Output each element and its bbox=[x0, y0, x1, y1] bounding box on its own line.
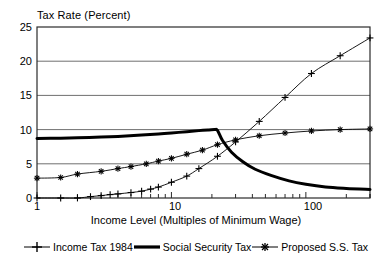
chart-legend: Income Tax 1984 Social Security Tax Prop… bbox=[24, 236, 368, 258]
legend-item-income-tax-1984: Income Tax 1984 bbox=[24, 241, 133, 253]
y-tick-label-10: 10 bbox=[6, 125, 32, 136]
chart-title: Tax Rate (Percent) bbox=[37, 9, 131, 21]
legend-label-proposed-ss-tax: Proposed S.S. Tax bbox=[281, 241, 368, 253]
x-tick-label-1: 1 bbox=[17, 201, 57, 212]
thick-line-symbol-icon bbox=[134, 241, 160, 253]
legend-item-social-security-tax: Social Security Tax bbox=[134, 241, 252, 253]
legend-label-social-security-tax: Social Security Tax bbox=[163, 241, 252, 253]
series-income-tax-1984 bbox=[34, 35, 374, 202]
y-tick-label-15: 15 bbox=[6, 90, 32, 101]
series-social-security-tax bbox=[37, 129, 370, 189]
star-line-symbol-icon bbox=[252, 241, 278, 253]
plot-frame bbox=[37, 27, 370, 198]
legend-label-income-tax-1984: Income Tax 1984 bbox=[53, 241, 133, 253]
gridlines bbox=[37, 61, 370, 164]
y-tick-label-25: 25 bbox=[6, 22, 32, 33]
x-axis-title: Income Level (Multiples of Minimum Wage) bbox=[0, 214, 392, 226]
series-proposed-s-s-tax bbox=[34, 126, 373, 181]
x-axis-ticks bbox=[37, 192, 370, 198]
y-tick-label-20: 20 bbox=[6, 56, 32, 67]
legend-item-proposed-ss-tax: Proposed S.S. Tax bbox=[252, 241, 368, 253]
y-tick-label-5: 5 bbox=[6, 159, 32, 170]
plus-line-symbol-icon bbox=[24, 241, 50, 253]
x-tick-label-10: 10 bbox=[155, 201, 195, 212]
x-tick-label-100: 100 bbox=[293, 201, 333, 212]
tax-rate-chart: Tax Rate (Percent) 25 20 15 10 5 0 1 10 … bbox=[0, 0, 392, 263]
data-series-layer bbox=[34, 35, 374, 202]
